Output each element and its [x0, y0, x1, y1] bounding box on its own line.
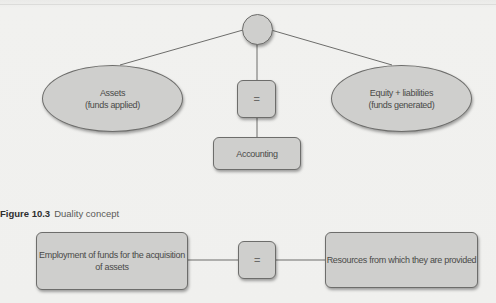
- figure-number: Figure 10.3: [0, 208, 50, 219]
- equals-sign-bottom: =: [254, 254, 260, 266]
- employment-of-funds-box: Employment of funds for the acquisition …: [36, 232, 188, 290]
- equals-sign: =: [253, 93, 259, 105]
- equity-liabilities-ellipse-node: Equity + liabilities (funds generated): [331, 65, 472, 132]
- root-circle-node: [242, 14, 273, 45]
- employment-label-line2: of assets: [95, 261, 128, 273]
- diagram-page: Assets (funds applied) = Equity + liabil…: [0, 0, 496, 303]
- assets-sublabel: (funds applied): [85, 99, 140, 111]
- equals-box-bottom: =: [238, 241, 276, 279]
- connector-root-to-assets: [120, 30, 243, 65]
- equity-sublabel: (funds generated): [369, 99, 435, 111]
- figure-caption: Figure 10.3Duality concept: [0, 208, 119, 219]
- assets-label: Assets: [100, 87, 125, 99]
- equity-label: Equity + liabilities: [370, 87, 433, 99]
- accounting-label: Accounting: [236, 148, 278, 160]
- resources-box: Resources from which they are provided: [325, 232, 478, 288]
- accounting-box: Accounting: [213, 137, 301, 170]
- connector-root-to-equity: [271, 30, 392, 65]
- resources-label: Resources from which they are provided: [327, 254, 477, 266]
- equals-box-top: =: [237, 80, 276, 118]
- figure-title: Duality concept: [54, 208, 119, 219]
- assets-ellipse-node: Assets (funds applied): [42, 65, 183, 132]
- employment-label-line1: Employment of funds for the acquisition: [39, 249, 185, 261]
